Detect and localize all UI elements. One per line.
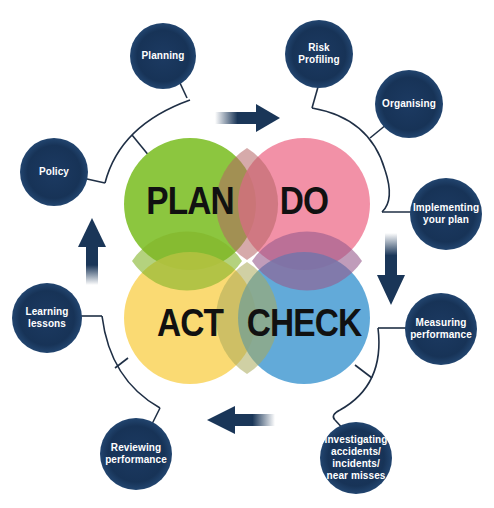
node-measuring: Measuring performance (405, 293, 477, 365)
arrow-right-icon (215, 104, 280, 132)
node-planning: Planning (130, 23, 196, 89)
act-label: ACT (132, 302, 248, 345)
node-learning: Learning lessons (12, 283, 82, 353)
node-reviewing: Reviewing performance (100, 418, 172, 490)
node-policy: Policy (20, 138, 88, 206)
node-organising: Organising (375, 70, 443, 138)
node-implementing: Implementing your plan (410, 178, 482, 250)
check-label: CHECK (246, 302, 362, 345)
node-investigating: Investigating accidents/ incidents/ near… (320, 422, 392, 494)
plan-label: PLAN (132, 180, 248, 223)
arrow-up-icon (78, 218, 106, 285)
node-risk-profiling: Risk Profiling (285, 20, 353, 88)
pdca-diagram: PLAN DO ACT CHECK Planning Risk Profilin… (0, 0, 494, 508)
arrow-down-icon (377, 233, 405, 305)
arrow-left-icon (207, 406, 275, 434)
do-label: DO (246, 180, 362, 223)
